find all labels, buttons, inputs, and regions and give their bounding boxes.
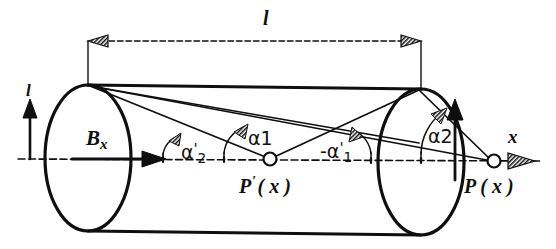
point-label-p: P( x ) [464, 176, 514, 196]
field-vector-label: Bx [86, 128, 108, 152]
field-vector-subscript: x [100, 136, 108, 152]
length-dimension-label: l [263, 8, 269, 28]
angle-arrowhead-alpha2-prime [169, 133, 181, 146]
cylinder-top-edge [88, 85, 421, 89]
angle-neg-alpha1-prime-symbol: -α [320, 140, 339, 162]
angle-label-alpha1: α1 [248, 129, 273, 148]
angle-arrowhead-alpha1 [234, 124, 248, 139]
angle-label-alpha2: α2 [428, 127, 453, 146]
diagram-canvas [0, 0, 556, 249]
point-marker-p-prime [264, 153, 277, 166]
dimension-arrowhead-right [401, 35, 421, 47]
angle-neg-alpha1-prime-subscript: 1 [343, 149, 352, 165]
angle-alpha2-prime-subscript: 2 [198, 150, 207, 166]
physics-cylinder-diagram: l l Bx α'2 α1 -α'1 α2 x P'( x ) P( x ) [0, 0, 556, 249]
ray-left-rim-to-p-prime [90, 86, 268, 158]
point-marker-p [488, 155, 501, 168]
angle-label-alpha2-prime: α'2 [181, 141, 206, 166]
point-p-argument: ( x ) [480, 175, 513, 197]
point-label-p-prime: P'( x ) [239, 173, 291, 196]
angle-alpha2-prime-symbol: α [181, 141, 194, 163]
point-p-prime-mark: ' [251, 172, 255, 189]
x-axis-label: x [508, 127, 518, 146]
current-label-left: l [26, 82, 31, 99]
point-p-prime-argument: ( x ) [258, 175, 291, 197]
x-axis-arrowhead [508, 153, 535, 169]
cylinder-bottom-edge [88, 231, 421, 235]
current-arrowhead-left [23, 99, 37, 118]
angle-label-neg-alpha1-prime: -α'1 [320, 140, 352, 165]
point-p-symbol: P [464, 175, 476, 197]
dimension-arrowhead-left [88, 35, 108, 47]
field-vector-symbol: B [86, 126, 100, 150]
point-p-prime-symbol: P [239, 175, 251, 197]
